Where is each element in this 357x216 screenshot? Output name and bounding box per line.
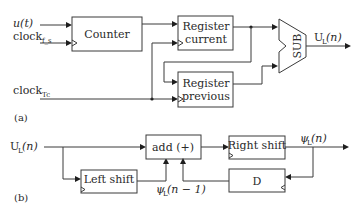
register-previous-block: Register previous: [178, 72, 233, 107]
arrow-head-icon: [272, 24, 278, 30]
svg-text:clock: clock: [13, 84, 42, 97]
arrow-head-icon: [345, 43, 351, 49]
svg-text:SUB: SUB: [291, 34, 304, 59]
svg-text:(n): (n): [311, 132, 327, 145]
panel-a-caption: (a): [14, 112, 28, 123]
delay-block: D: [229, 169, 285, 192]
svg-text:f_s: f_s: [42, 37, 52, 45]
arrow-head-icon: [172, 21, 178, 27]
arrow-head-icon: [66, 40, 72, 46]
add-block: add (+): [146, 135, 201, 159]
arrow-head-icon: [140, 144, 146, 150]
psi-output-label: ψ L (n): [300, 132, 327, 147]
svg-text:D: D: [253, 175, 262, 188]
register-current-block: Register current: [178, 16, 233, 50]
left-shift-block: Left shift: [81, 170, 137, 193]
svg-text:Register: Register: [182, 20, 230, 33]
clock-tc-label: clock Tc: [13, 84, 50, 99]
left-shift-output-wire: [137, 162, 166, 181]
panel-b-caption: (b): [14, 192, 28, 203]
svg-text:current: current: [185, 33, 227, 46]
register-previous-output-wire: [233, 66, 274, 84]
arrow-head-icon: [343, 144, 349, 150]
feedback-tap-wire: [289, 147, 313, 177]
arrow-head-icon: [172, 40, 178, 46]
ul-output-label: U L (n): [314, 31, 342, 46]
svg-text:Counter: Counter: [84, 28, 130, 41]
svg-text:add (+): add (+): [152, 141, 194, 154]
svg-text:Right shift: Right shift: [228, 139, 287, 152]
arrow-head-icon: [66, 22, 72, 28]
arrow-head-icon: [75, 176, 81, 182]
arrow-head-icon: [172, 96, 178, 102]
panel-a: u(t) clock f_s clock Tc Counter Register: [13, 16, 351, 123]
svg-text:(n − 1): (n − 1): [167, 183, 206, 196]
u-input-label: u(t): [13, 17, 33, 30]
ul-input-label: U L (n): [10, 140, 38, 155]
arrow-head-icon: [272, 63, 278, 69]
left-shift-branch-wire: [63, 147, 77, 179]
counter-block: Counter: [72, 17, 142, 51]
svg-text:Register: Register: [182, 77, 230, 90]
svg-text:Tc: Tc: [42, 91, 50, 99]
svg-text:(n): (n): [22, 140, 38, 153]
svg-text:previous: previous: [182, 90, 230, 103]
block-diagram: u(t) clock f_s clock Tc Counter Register: [0, 0, 357, 216]
psi-feedback-label: ψ L (n − 1): [156, 183, 206, 198]
clock-tc-riser-wire: [152, 43, 174, 99]
arrow-head-icon: [172, 79, 178, 85]
svg-text:Left shift: Left shift: [84, 173, 135, 186]
arrow-head-icon: [285, 174, 291, 180]
sub-block: SUB: [279, 19, 306, 73]
panel-b: U L (n) Left shift add (+): [10, 132, 349, 203]
delay-output-wire: [183, 162, 229, 181]
svg-text:(n): (n): [326, 31, 342, 44]
svg-text:clock: clock: [13, 30, 42, 43]
right-shift-block: Right shift: [228, 136, 287, 159]
